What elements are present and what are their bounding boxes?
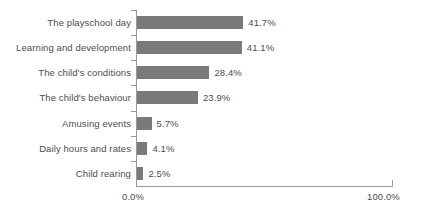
bar-value-label: 5.7% xyxy=(157,118,179,129)
bar xyxy=(137,142,147,155)
bar-row: Child rearing2.5% xyxy=(0,161,429,186)
bar-row: The child's behaviour23.9% xyxy=(0,85,429,110)
category-label: Amusing events xyxy=(0,118,131,129)
category-label: Learning and development xyxy=(0,42,131,53)
bar-value-label: 41.7% xyxy=(248,17,275,28)
bar-row: The child's conditions28.4% xyxy=(0,60,429,85)
bar-value-label: 4.1% xyxy=(152,143,174,154)
y-axis-tick xyxy=(131,161,137,162)
bar-value-label: 23.9% xyxy=(203,92,230,103)
bar-value-label: 41.1% xyxy=(247,42,274,53)
bar xyxy=(137,167,143,180)
bar-row: Amusing events5.7% xyxy=(0,111,429,136)
y-axis-tick xyxy=(131,10,137,11)
bar-row: The playschool day41.7% xyxy=(0,10,429,35)
category-label: Child rearing xyxy=(0,168,131,179)
bar xyxy=(137,91,198,104)
category-label: The playschool day xyxy=(0,17,131,28)
y-axis-tick xyxy=(131,136,137,137)
bar-row: Learning and development41.1% xyxy=(0,35,429,60)
bar xyxy=(137,16,243,29)
bar-row: Daily hours and rates4.1% xyxy=(0,136,429,161)
y-axis-tick xyxy=(131,60,137,61)
category-label: The child's conditions xyxy=(0,67,131,78)
bar-value-label: 2.5% xyxy=(148,168,170,179)
x-tick-label-max: 100.0% xyxy=(367,191,400,202)
category-label: Daily hours and rates xyxy=(0,143,131,154)
y-axis-tick xyxy=(131,111,137,112)
y-axis-tick xyxy=(131,85,137,86)
category-label: The child's behaviour xyxy=(0,92,131,103)
bar-chart: The playschool day41.7%Learning and deve… xyxy=(0,0,429,217)
bar xyxy=(137,41,242,54)
y-axis-tick xyxy=(131,35,137,36)
bar-value-label: 28.4% xyxy=(214,67,241,78)
bar-rows: The playschool day41.7%Learning and deve… xyxy=(0,10,429,186)
x-tick-label-min: 0.0% xyxy=(122,191,144,202)
bar xyxy=(137,117,152,130)
x-axis-line xyxy=(136,186,393,187)
bar xyxy=(137,66,209,79)
